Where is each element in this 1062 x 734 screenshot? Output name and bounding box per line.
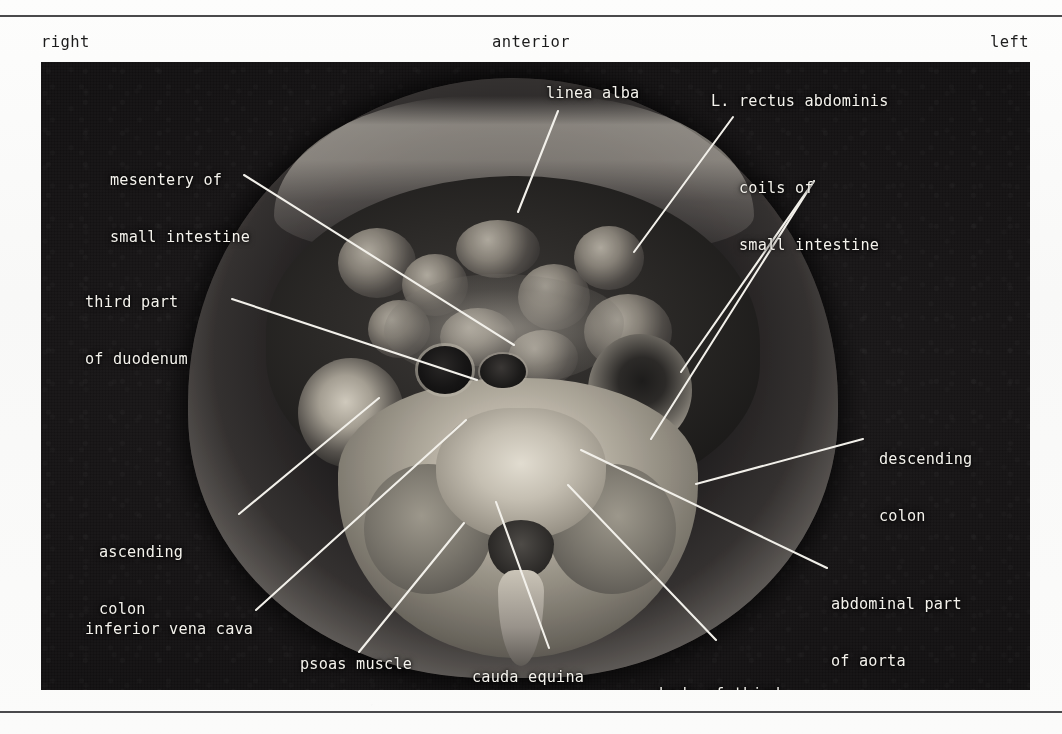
orientation-label-anterior: anterior [0,33,1062,51]
annotation-line-2: of aorta [831,652,962,671]
annotation-inferior-vena-cava: inferior vena cava [85,620,253,639]
annotation-linea-alba: linea alba [546,84,639,103]
annotation-line-2: small intestine [739,236,879,255]
leader-line-l-rectus-abdominis [634,117,733,252]
page-rule-top [0,15,1062,17]
page-rule-bottom [0,711,1062,713]
annotation-line-1: body of third [659,685,799,690]
leader-line-inferior-vena-cava [256,420,466,610]
annotation-line-1: coils of [739,179,879,198]
leader-line-linea-alba [518,111,558,212]
annotation-line-1: third part [85,293,188,312]
leader-line-ascending-colon [239,398,379,514]
annotation-body-of-third-lumbar-vertebra: body of third lumbar vertebra [659,647,799,690]
orientation-label-left: left [990,33,1029,51]
annotation-abdominal-part-of-aorta: abdominal part of aorta [831,557,962,690]
leader-line-descending-colon [696,439,863,484]
annotation-line-1: abdominal part [831,595,962,614]
leader-line-cauda-equina [496,502,549,648]
annotation-line-2: colon [99,600,183,619]
annotation-line-2: of duodenum [85,350,188,369]
annotation-line-1: descending [879,450,972,469]
annotation-line-1: mesentery of [110,171,250,190]
anatomy-plate: right anterior left [0,0,1062,734]
annotation-line-2: small intestine [110,228,250,247]
cross-section-photograph: linea alba L. rectus abdominis coils of … [41,62,1030,690]
annotation-psoas-muscle: psoas muscle [300,655,412,674]
leader-line-mesentery [244,175,514,345]
annotation-l-rectus-abdominis: L. rectus abdominis [711,92,889,111]
annotation-line-1: ascending [99,543,183,562]
annotation-line-2: colon [879,507,972,526]
leader-line-third-part-duodenum [232,299,477,380]
leader-line-body-third-lumbar [568,485,716,640]
annotation-coils-of-small-intestine: coils of small intestine [739,141,879,293]
annotation-third-part-of-duodenum: third part of duodenum [85,255,188,407]
leader-line-psoas-muscle [359,523,464,652]
leader-line-abdominal-aorta [581,450,827,568]
annotation-cauda-equina: cauda equina [472,668,584,687]
annotation-descending-colon: descending colon [879,412,972,564]
